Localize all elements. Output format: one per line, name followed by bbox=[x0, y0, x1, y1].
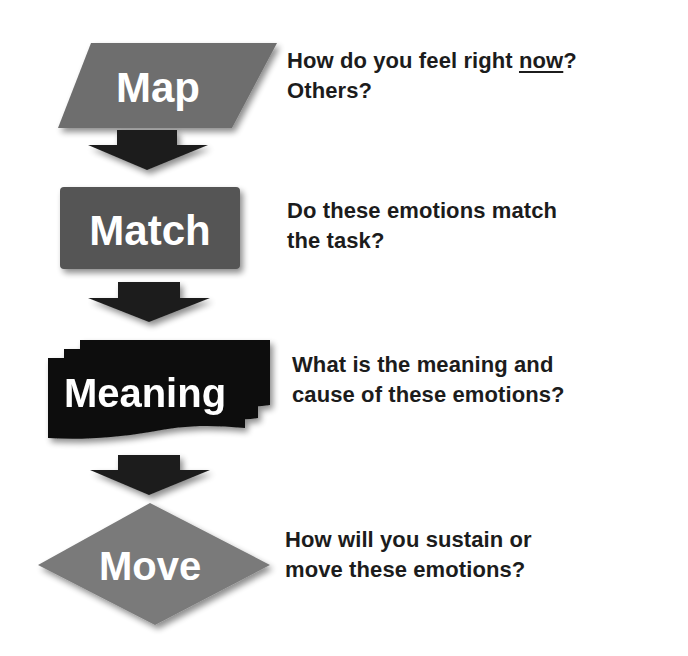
meaning-step-shape: Meaning bbox=[48, 340, 270, 439]
now-emphasis: now bbox=[519, 48, 563, 73]
down-arrow-icon bbox=[90, 455, 210, 495]
match-question-line1: Do these emotions match bbox=[287, 196, 557, 226]
meaning-question: What is the meaning and cause of these e… bbox=[292, 350, 565, 410]
match-question-line2: the task? bbox=[287, 226, 557, 256]
meaning-label: Meaning bbox=[64, 371, 226, 415]
move-question: How will you sustain or move these emoti… bbox=[285, 525, 532, 585]
move-label: Move bbox=[99, 544, 201, 588]
map-step-shape: Map bbox=[58, 43, 277, 128]
map-question-mark: ? bbox=[563, 48, 577, 73]
move-step-shape: Move bbox=[38, 503, 270, 625]
map-question-line1: How do you feel right now? bbox=[287, 46, 577, 76]
match-step-shape: Match bbox=[60, 187, 240, 269]
map-question-text: How do you feel right bbox=[287, 48, 519, 73]
move-question-line1: How will you sustain or bbox=[285, 525, 532, 555]
meaning-question-line2: cause of these emotions? bbox=[292, 380, 565, 410]
move-question-line2: move these emotions? bbox=[285, 555, 532, 585]
map-question-line2: Others? bbox=[287, 76, 577, 106]
map-label: Map bbox=[116, 64, 200, 111]
match-question: Do these emotions match the task? bbox=[287, 196, 557, 256]
map-question: How do you feel right now? Others? bbox=[287, 46, 577, 106]
down-arrow-icon bbox=[88, 282, 210, 322]
meaning-question-line1: What is the meaning and bbox=[292, 350, 565, 380]
match-label: Match bbox=[89, 207, 210, 254]
down-arrow-icon bbox=[88, 130, 208, 170]
